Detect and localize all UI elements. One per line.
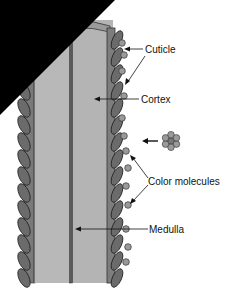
cuticle-pointer-2 [127,56,145,83]
color-molecules-arrowhead-1 [130,155,136,161]
color-molecule [121,133,128,140]
hair-shaft-svg: Cuticle Cortex Color molecules Medulla [0,0,225,293]
label-cuticle: Cuticle [145,44,176,55]
color-molecule [125,202,132,209]
color-molecule [119,68,126,75]
color-molecule [119,115,126,122]
label-medulla: Medulla [149,224,184,235]
color-molecules-pointer-2 [133,185,148,201]
color-molecule [121,52,128,59]
color-molecule [119,40,126,47]
cluster-molecule [162,141,169,148]
color-molecule [125,244,132,251]
label-color-molecules: Color molecules [148,176,220,187]
cluster-molecule [173,135,180,142]
color-molecule [123,148,130,155]
color-molecule [125,165,132,172]
cuticle-arrowhead-1 [124,47,130,52]
color-molecule [121,93,128,100]
color-molecule [123,259,130,266]
color-molecule [123,183,130,190]
color-molecule-cluster-icon [162,131,180,150]
cluster-arrowhead [142,138,148,144]
label-cortex: Cortex [141,94,170,105]
hair-diagram: Cuticle Cortex Color molecules Medulla [0,0,225,293]
color-molecules-pointer-1 [133,158,148,178]
medulla [70,28,73,283]
